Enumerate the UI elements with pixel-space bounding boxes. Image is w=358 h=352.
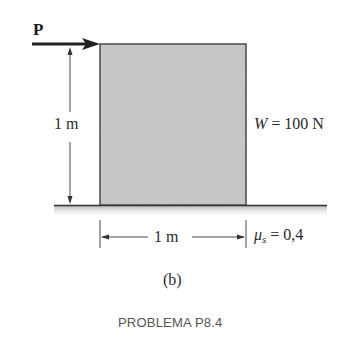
mu-value: = 0,4 (266, 226, 303, 243)
height-dimension-label: 1 m (54, 116, 78, 132)
force-arrow-icon (32, 38, 100, 50)
force-p-label: P (33, 21, 43, 38)
subfigure-label: (b) (163, 272, 182, 288)
weight-label: W = 100 N (254, 116, 324, 132)
arrowhead-down-icon (68, 196, 73, 204)
friction-coefficient-label: μs = 0,4 (254, 227, 303, 245)
width-dimension-label: 1 m (151, 229, 181, 245)
weight-symbol: W (254, 115, 267, 132)
figure-caption: PROBLEMA P8.4 (118, 316, 222, 329)
arrowhead-up-icon (68, 47, 73, 55)
arrowhead-left-icon (101, 235, 109, 240)
arrowhead-right-icon (237, 235, 245, 240)
friction-block-diagram: P 1 m 1 m W = 100 N μs = 0,4 (b) PROBLEM… (0, 0, 358, 352)
block-texture (101, 45, 246, 205)
mu-symbol: μ (254, 226, 262, 243)
ground-shade (54, 206, 327, 218)
weight-value: = 100 N (267, 115, 324, 132)
diagram-graphics (0, 0, 358, 352)
ground (54, 206, 327, 219)
block (100, 44, 246, 205)
